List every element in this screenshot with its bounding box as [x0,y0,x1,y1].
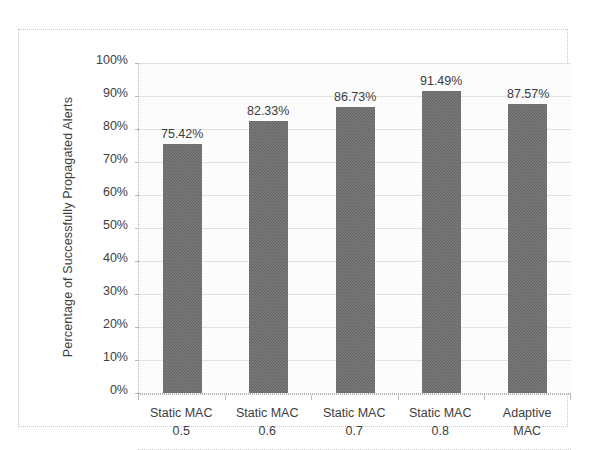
x-tickmark [398,395,399,400]
y-tickmark [135,294,139,295]
y-tick-label: 80% [74,119,128,133]
y-tickmark [135,360,139,361]
bar-static-mac-06[interactable] [249,121,288,393]
x-category-line2: 0.6 [224,422,310,440]
x-category-line1: Static MAC [409,406,472,420]
plot-area: 75.42% 82.33% 86.73% 91.49% 87.57% [138,63,571,393]
x-tickmark [311,395,312,400]
y-tickmark [135,162,139,163]
chart-frame: Percentage of Successfully Propagated Al… [18,29,568,427]
bar-value-label: 75.42% [139,127,225,141]
x-category-label: Static MAC 0.7 [311,404,397,440]
x-category-label: Static MAC 0.8 [397,404,483,440]
x-category-line1: Static MAC [150,406,213,420]
x-tickmark [138,395,139,400]
x-category-line1: Static MAC [323,406,386,420]
bar-value-label: 91.49% [398,74,484,88]
bar-static-mac-08[interactable] [422,91,461,393]
y-tickmark [135,327,139,328]
y-tickmark [135,195,139,196]
y-axis-tick-labels: 100% 90% 80% 70% 60% 50% 40% 30% 20% 10%… [74,60,128,400]
y-tick-label: 40% [74,251,128,265]
x-category-line2: 0.7 [311,422,397,440]
y-tick-label: 0% [74,383,128,397]
bar-value-label: 87.57% [485,87,571,101]
y-tick-label: 50% [74,218,128,232]
bar-static-mac-05[interactable] [163,144,202,393]
x-category-label: Static MAC 0.6 [224,404,310,440]
y-tickmark [135,228,139,229]
y-tick-label: 100% [74,53,128,67]
x-category-line2: 0.5 [138,422,224,440]
y-tick-label: 70% [74,152,128,166]
x-tickmark [570,395,571,400]
gridline-100 [139,63,571,64]
x-tickmark [225,395,226,400]
y-tickmark [135,63,139,64]
y-tick-label: 30% [74,284,128,298]
bar-value-label: 82.33% [225,104,311,118]
x-category-line1: Adaptive [503,406,552,420]
y-tick-label: 60% [74,185,128,199]
x-axis: Static MAC 0.5 Static MAC 0.6 Static MAC… [138,394,571,450]
x-category-line2: 0.8 [397,422,483,440]
bar-value-label: 86.73% [312,90,398,104]
y-tick-label: 10% [74,350,128,364]
x-category-label: Adaptive MAC [484,404,570,440]
bar-adaptive-mac[interactable] [508,104,547,393]
x-category-line1: Static MAC [236,406,299,420]
x-category-line2: MAC [484,422,570,440]
y-tick-label: 90% [74,86,128,100]
y-tickmark [135,96,139,97]
bar-static-mac-07[interactable] [336,107,375,393]
x-category-label: Static MAC 0.5 [138,404,224,440]
x-tickmark [484,395,485,400]
y-tickmark [135,261,139,262]
y-tick-label: 20% [74,317,128,331]
